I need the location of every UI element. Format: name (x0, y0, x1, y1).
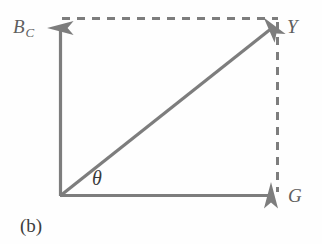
vector-diagram-canvas (0, 0, 322, 244)
vertical-axis-label-base: B (13, 16, 25, 37)
horizontal-axis-label: G (288, 186, 302, 205)
angle-theta-label: θ (92, 168, 102, 188)
vertical-axis-label-subscript: C (26, 25, 35, 40)
vector-diagram-figure: BC Y G θ (b) (0, 0, 322, 244)
figure-caption: (b) (20, 216, 42, 235)
resultant-vector-label: Y (287, 17, 298, 36)
vertical-axis-label: BC (13, 17, 33, 36)
